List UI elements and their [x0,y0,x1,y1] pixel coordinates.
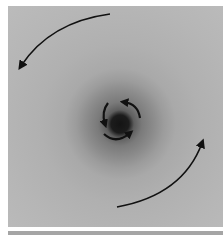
inner-arrow-left-icon [104,103,108,124]
outer-arrow-bottom-right-icon [117,143,202,207]
inner-arrow-top-right-icon [124,102,140,118]
rotation-arrows-overlay [0,0,223,235]
outer-arrow-top-left-icon [21,14,110,66]
inner-arrow-bottom-icon [104,133,130,139]
